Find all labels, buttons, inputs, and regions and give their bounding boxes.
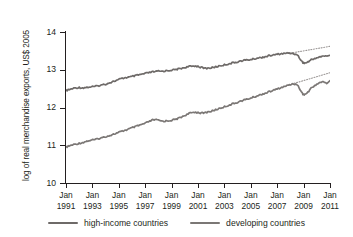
legend-label: developing countries [226,218,305,228]
x-tick-month: Jan [59,190,73,200]
x-tick-1995 [119,184,120,188]
x-tick-label-2011: Jan2011 [310,190,350,211]
x-tick-month: Jan [165,190,179,200]
x-tick-2005 [251,184,252,188]
y-tick-13 [60,70,65,71]
y-tick-label-10: 10 [16,179,56,188]
x-tick-month: Jan [323,190,337,200]
x-tick-month: Jan [86,190,100,200]
legend-item-developing-countries[interactable]: developing countries [190,218,305,228]
x-tick-2011 [330,184,331,188]
legend-swatch-icon [190,222,220,225]
x-tick-month: Jan [191,190,205,200]
y-tick-10 [60,183,65,184]
x-tick-1991 [66,184,67,188]
y-tick-11 [60,145,65,146]
x-tick-1999 [172,184,173,188]
x-tick-month: Jan [218,190,232,200]
x-tick-month: Jan [270,190,284,200]
chart-figure: log of real merchandise exports, US$ 200… [0,0,353,237]
trend-line-high-income-trend [290,46,330,53]
x-tick-2007 [277,184,278,188]
x-tick-1993 [92,184,93,188]
y-tick-label-11: 11 [16,141,56,150]
series-line-developing-countries [66,81,330,148]
legend-item-high-income-countries[interactable]: high-income countries [48,218,168,228]
x-tick-1997 [145,184,146,188]
y-tick-label-12: 12 [16,103,56,112]
legend-swatch-icon [48,222,78,225]
x-tick-2003 [224,184,225,188]
x-tick-month: Jan [297,190,311,200]
chart-legend: high-income countriesdeveloping countrie… [0,215,353,231]
y-tick-label-13: 13 [16,65,56,74]
y-tick-12 [60,108,65,109]
legend-label: high-income countries [84,218,168,228]
x-tick-2001 [198,184,199,188]
x-tick-month: Jan [138,190,152,200]
plot-area [66,32,330,183]
y-tick-label-14: 14 [16,28,56,37]
x-tick-year: 2011 [310,201,350,212]
x-tick-month: Jan [244,190,258,200]
y-tick-14 [60,32,65,33]
x-tick-2009 [304,184,305,188]
x-tick-month: Jan [112,190,126,200]
series-canvas [66,32,330,183]
